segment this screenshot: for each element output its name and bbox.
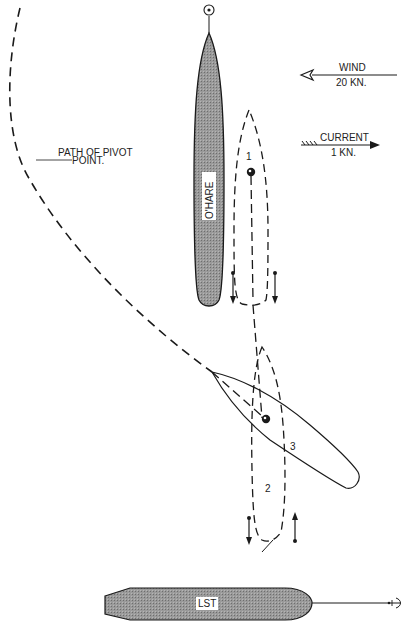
ohare-ship: O'HARE <box>194 5 224 306</box>
tug-arrow-2-right-icon <box>292 512 298 543</box>
current-title: CURRENT <box>320 132 369 143</box>
anchor-icon <box>388 598 401 608</box>
lst-ship: LST <box>105 588 401 620</box>
position-1-label: 1 <box>246 151 252 162</box>
tug-arrow-2-left-icon <box>246 516 252 545</box>
position-2-label: 2 <box>265 483 271 494</box>
current-speed: 1 KN. <box>331 147 356 158</box>
tug-arrow-1-left-icon <box>230 271 236 304</box>
current-arrowhead-icon <box>370 141 380 149</box>
wind-title: WIND <box>339 62 366 73</box>
pivot-point-1-icon <box>247 168 255 176</box>
wind-speed: 20 KN. <box>336 77 367 88</box>
pivot-path-label-line2: POINT. <box>72 155 104 166</box>
tug-arrow-1-right-icon <box>272 271 278 304</box>
wind-arrowhead-icon <box>301 70 313 80</box>
wind-indicator: WIND 20 KN. <box>301 62 397 88</box>
ship-maneuver-diagram: PATH OF PIVOT POINT. WIND 20 KN. CURRENT… <box>0 0 409 631</box>
pivot-point-3-icon <box>262 415 270 423</box>
lst-label: LST <box>198 598 216 609</box>
ohare-label: O'HARE <box>204 181 215 219</box>
ship-position-1: 1 <box>230 110 278 305</box>
pivot-path-curve <box>10 8 212 372</box>
position-3-label: 3 <box>290 441 296 452</box>
current-indicator: CURRENT 1 KN. <box>301 132 380 158</box>
